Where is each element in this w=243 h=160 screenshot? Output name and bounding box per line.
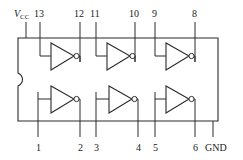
pin-label-8: 8	[192, 9, 197, 19]
inverter-6-bubble	[189, 96, 194, 101]
pin-label-9: 9	[152, 9, 157, 19]
pin-label-gnd: GND	[205, 143, 227, 153]
inverter-5-bubble	[132, 96, 137, 101]
inverter-1-bubble	[74, 53, 79, 58]
pin-label-12: 12	[74, 9, 84, 19]
inverter-5	[96, 86, 138, 113]
inverter-6-triangle	[166, 86, 189, 113]
inverter-3	[155, 43, 195, 70]
pin-label-11: 11	[90, 9, 100, 19]
inverter-6	[155, 86, 195, 113]
inverter-1	[40, 43, 80, 70]
inverter-5-triangle	[109, 86, 132, 113]
pin-label-2: 2	[78, 143, 83, 153]
inverter-2-triangle	[107, 43, 130, 70]
pin-label-3: 3	[94, 143, 99, 153]
pin-label-10: 10	[129, 9, 139, 19]
pin-label-4: 4	[136, 143, 141, 153]
pin-label-6: 6	[193, 143, 198, 153]
inverter-3-triangle	[166, 43, 189, 70]
pin-label-vcc: VCC	[14, 9, 29, 19]
inverter-4	[38, 86, 80, 113]
diagram-canvas: VCC 13 12 11 10 9 8 1 2 3 4 5 6 GND	[0, 0, 243, 160]
inverter-1-triangle	[51, 43, 74, 70]
inverter-4-bubble	[74, 96, 79, 101]
pin-label-vcc-sub: CC	[20, 13, 29, 21]
inverter-2-bubble	[130, 53, 135, 58]
pin-label-5: 5	[153, 143, 158, 153]
ic-schematic	[0, 0, 243, 160]
inverter-4-triangle	[51, 86, 74, 113]
inverter-3-bubble	[189, 53, 194, 58]
pin-label-1: 1	[36, 143, 41, 153]
pin-label-13: 13	[34, 9, 44, 19]
inverter-2	[96, 43, 135, 70]
